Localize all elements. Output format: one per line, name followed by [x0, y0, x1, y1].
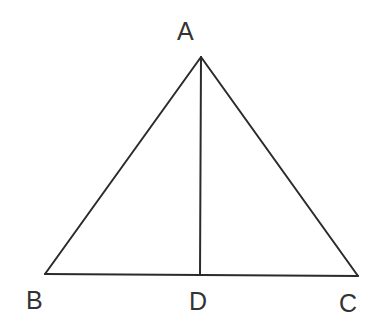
- geometry-figure: A B D C: [0, 0, 371, 330]
- vertex-label-d: D: [189, 289, 208, 314]
- triangle-diagram-svg: [0, 0, 371, 330]
- vertex-label-b: B: [26, 288, 43, 313]
- segment-ad: [200, 57, 201, 275]
- vertex-label-c: C: [339, 291, 358, 316]
- figure-background: [0, 0, 371, 330]
- vertex-label-a: A: [177, 19, 194, 44]
